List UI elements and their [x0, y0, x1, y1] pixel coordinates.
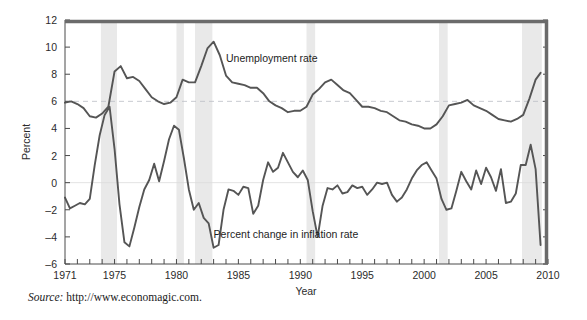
y-tick-label-12: 12 [45, 14, 57, 26]
y-tick-label--4: –4 [45, 231, 57, 243]
y-tick-label-0: 0 [51, 177, 57, 189]
x-tick-label-2010: 2010 [536, 269, 560, 281]
source-note: Source: http://www.economagic.com. [28, 291, 202, 303]
series-annotations-group: Unemployment ratePercent change in infla… [214, 52, 359, 240]
x-tick-label-1975: 1975 [103, 269, 127, 281]
figure-container: 121086420–2–4–61971197519801985199019952… [0, 0, 587, 320]
series-line-inflation [65, 107, 541, 248]
x-axis-title: Year [295, 285, 317, 297]
y-tick-label-8: 8 [51, 68, 57, 80]
source-url: http://www.economagic.com. [66, 291, 202, 303]
unemployment-inflation-chart: 121086420–2–4–61971197519801985199019952… [0, 0, 587, 320]
series-label-inflation: Percent change in inflation rate [214, 228, 359, 240]
x-tick-label-1985: 1985 [227, 269, 251, 281]
y-tick-label-6: 6 [51, 95, 57, 107]
recession-band-4 [439, 20, 448, 264]
x-tick-label-2000: 2000 [412, 269, 436, 281]
x-tick-label-1971: 1971 [53, 269, 77, 281]
y-tick-label-10: 10 [45, 41, 57, 53]
series-label-unemployment: Unemployment rate [226, 52, 318, 64]
x-tick-label-1995: 1995 [351, 269, 375, 281]
y-tick-label-2: 2 [51, 150, 57, 162]
series-lines-group [65, 42, 541, 248]
y-tick-label-4: 4 [51, 122, 57, 134]
y-tick-label--2: –2 [45, 204, 57, 216]
source-label: Source: [28, 291, 63, 303]
y-axis-title: Percent [20, 124, 32, 160]
x-tick-label-1980: 1980 [165, 269, 189, 281]
x-tick-label-2005: 2005 [474, 269, 498, 281]
x-tick-label-1990: 1990 [289, 269, 313, 281]
